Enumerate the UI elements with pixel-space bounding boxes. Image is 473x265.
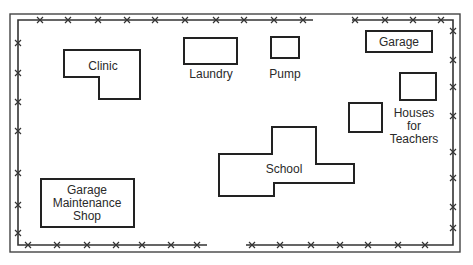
houses-label-line-1: Houses <box>394 106 435 120</box>
laundry-label: Laundry <box>189 67 232 81</box>
building-school[interactable]: School <box>219 127 354 196</box>
site-map: Clinic Laundry Pump Garage Houses for Te… <box>0 0 473 265</box>
pump-label: Pump <box>269 67 301 81</box>
building-houses-for-teachers[interactable]: Houses for Teachers <box>349 73 438 146</box>
maintenance-label-line-2: Maintenance <box>53 196 122 210</box>
clinic-label: Clinic <box>88 59 117 73</box>
houses-label-line-2: for <box>407 119 421 133</box>
school-label: School <box>266 162 303 176</box>
house-outline-1 <box>400 73 436 100</box>
pump-outline <box>271 37 299 58</box>
laundry-outline <box>184 38 237 64</box>
building-laundry[interactable]: Laundry <box>184 38 237 81</box>
maintenance-label-line-3: Shop <box>73 209 101 223</box>
building-garage[interactable]: Garage <box>366 31 432 52</box>
building-clinic[interactable]: Clinic <box>64 50 140 99</box>
fence-left-segment <box>18 20 313 245</box>
maintenance-label-line-1: Garage <box>67 183 107 197</box>
house-outline-2 <box>349 103 382 132</box>
building-pump[interactable]: Pump <box>269 37 301 81</box>
clinic-outline <box>64 50 140 99</box>
houses-label-line-3: Teachers <box>390 132 439 146</box>
garage-label: Garage <box>379 35 419 49</box>
building-garage-maintenance-shop[interactable]: Garage Maintenance Shop <box>41 179 134 227</box>
